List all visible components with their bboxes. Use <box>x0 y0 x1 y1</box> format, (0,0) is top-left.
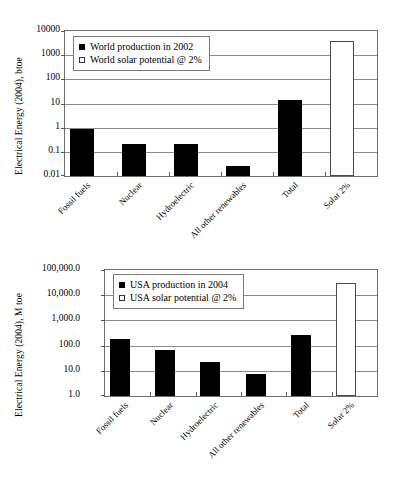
y-tick-mark <box>61 79 65 80</box>
legend-world: World production in 2002 World solar pot… <box>73 36 210 71</box>
y-tick-label: 100.0 <box>59 340 80 350</box>
y-tick-label: 10,000.0 <box>47 289 80 299</box>
y-tick-mark <box>101 395 105 396</box>
y-tick-mark <box>61 55 65 56</box>
y-tick-mark <box>101 371 105 372</box>
bar <box>110 339 130 396</box>
legend-swatch-filled-icon <box>119 282 125 288</box>
legend-item: World production in 2002 <box>79 40 202 53</box>
y-tick-label: 100 <box>46 74 60 84</box>
y-tick-label: 1000 <box>41 49 60 59</box>
legend-usa: USA production in 2004 USA solar potenti… <box>113 274 244 309</box>
chart-usa: Electrical Energy (2004), M toe 100,000.… <box>0 245 397 489</box>
legend-label: World solar potential @ 2% <box>90 53 202 66</box>
y-tick-mark <box>101 346 105 347</box>
legend-label: World production in 2002 <box>90 40 193 53</box>
y-tick-mark <box>101 270 105 271</box>
legend-swatch-filled-icon <box>79 44 85 50</box>
legend-label: USA solar potential @ 2% <box>130 291 236 304</box>
x-tick-mark <box>286 392 287 396</box>
bar <box>122 144 146 176</box>
bar <box>330 41 354 176</box>
y-tick-label: 0.1 <box>48 146 60 156</box>
legend-item: USA solar potential @ 2% <box>119 291 236 304</box>
x-tick-mark <box>221 172 222 176</box>
bar <box>200 362 220 396</box>
bar <box>336 283 356 396</box>
y-tick-mark <box>61 152 65 153</box>
bar <box>174 144 198 176</box>
y-tick-label: 10 <box>51 98 61 108</box>
x-tick-mark <box>169 172 170 176</box>
y-tick-label: 1,000.0 <box>52 315 81 325</box>
x-tick-mark <box>325 172 326 176</box>
y-tick-mark <box>61 104 65 105</box>
legend-swatch-hollow-icon <box>119 295 125 301</box>
y-tick-label: 0.01 <box>43 170 60 180</box>
x-tick-mark <box>117 172 118 176</box>
x-tick-mark <box>241 392 242 396</box>
bar <box>155 350 175 396</box>
y-tick-mark <box>61 31 65 32</box>
y-tick-mark <box>61 128 65 129</box>
legend-swatch-hollow-icon <box>79 57 85 63</box>
y-axis-title-usa: Electrical Energy (2004), M toe <box>14 293 24 417</box>
y-tick-mark <box>61 175 65 176</box>
x-tick-mark <box>150 392 151 396</box>
y-tick-label: 10.0 <box>63 365 80 375</box>
y-tick-label: 100,000.0 <box>42 264 80 274</box>
y-tick-label: 1 <box>55 122 60 132</box>
y-tick-label: 1.0 <box>68 390 80 400</box>
x-tick-mark <box>332 392 333 396</box>
legend-item: USA production in 2004 <box>119 278 236 291</box>
y-tick-mark <box>101 295 105 296</box>
x-tick-mark <box>273 172 274 176</box>
y-tick-label: 10000 <box>36 25 60 35</box>
legend-item: World solar potential @ 2% <box>79 53 202 66</box>
bar <box>70 129 94 176</box>
y-tick-mark <box>101 320 105 321</box>
y-axis-title-world: Electrical Energy (2004), btoe <box>14 57 24 175</box>
chart-world: Electrical Energy (2004), btoe 100001000… <box>0 0 397 245</box>
x-tick-mark <box>196 392 197 396</box>
legend-label: USA production in 2004 <box>130 278 228 291</box>
